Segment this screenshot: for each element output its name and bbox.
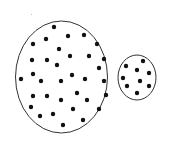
dot bbox=[59, 79, 63, 83]
dot bbox=[19, 77, 23, 81]
dot bbox=[125, 84, 129, 88]
background bbox=[0, 0, 170, 144]
dot bbox=[83, 77, 87, 81]
dot bbox=[31, 72, 35, 76]
speck bbox=[31, 14, 32, 15]
dot bbox=[121, 76, 125, 80]
dot bbox=[70, 73, 74, 77]
dot bbox=[29, 105, 33, 109]
dot bbox=[147, 84, 151, 88]
dot bbox=[30, 58, 34, 62]
dot bbox=[141, 59, 145, 63]
dot bbox=[44, 37, 48, 41]
dot bbox=[124, 64, 128, 68]
dot bbox=[102, 57, 106, 61]
dot bbox=[97, 107, 101, 111]
dot bbox=[52, 25, 56, 29]
dot bbox=[75, 91, 79, 95]
dot bbox=[55, 63, 59, 67]
dot bbox=[31, 42, 35, 46]
dot bbox=[45, 58, 49, 62]
dot bbox=[138, 79, 142, 83]
dot bbox=[135, 68, 139, 72]
dot bbox=[39, 79, 43, 83]
dot bbox=[71, 107, 75, 111]
dot bbox=[85, 98, 89, 102]
dot bbox=[68, 54, 72, 58]
dot bbox=[38, 114, 42, 118]
dot bbox=[135, 91, 139, 95]
dot bbox=[147, 71, 151, 75]
dot bbox=[51, 112, 55, 116]
dot bbox=[66, 34, 70, 38]
dot bbox=[102, 79, 106, 83]
dot bbox=[81, 118, 85, 122]
dot bbox=[45, 94, 49, 98]
dot bbox=[97, 66, 101, 70]
dot bbox=[104, 93, 108, 97]
dot bbox=[82, 33, 86, 37]
dot bbox=[57, 47, 61, 51]
dot bbox=[87, 54, 91, 58]
dot bbox=[61, 123, 65, 127]
dot bbox=[31, 94, 35, 98]
dot bbox=[59, 98, 63, 102]
dot bbox=[95, 42, 99, 46]
dot-diagram bbox=[0, 0, 170, 144]
